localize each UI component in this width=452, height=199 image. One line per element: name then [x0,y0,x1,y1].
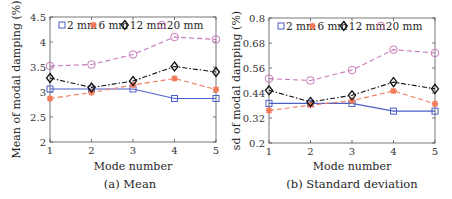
subfigure-caption: (a) Mean [104,177,157,191]
y-tick-label: 3.5 [30,62,46,73]
y-tick-label: 0.44 [243,88,265,99]
x-tick-label: 3 [130,145,136,156]
legend: 2 mm6 mm12 mm20 mm [278,20,422,32]
x-tick-label: 1 [266,146,272,157]
y-tick-label: 0.68 [243,38,265,49]
subfigure-caption: (b) Standard deviation [286,177,418,191]
6mm-marker [213,86,219,92]
y-tick-label: 4 [40,37,46,48]
legend-6mm-marker [90,22,96,28]
legend-label: 20 mm [167,19,204,31]
x-axis-label: Mode number [94,160,173,173]
plot-area [50,17,216,142]
y-tick-label: 2 [40,137,46,148]
legend-2mm-marker [59,22,65,28]
legend-2mm-marker [278,23,284,29]
series-20mm [265,46,439,84]
x-tick-label: 4 [171,145,177,156]
y-tick-label: 4.5 [30,12,46,23]
x-tick-label: 4 [390,146,396,157]
x-tick-label: 2 [307,146,313,157]
legend-label: 20 mm [386,20,423,32]
chart-standard-deviation: 0.20.320.440.560.680.8123452 mm6 mm12 mm… [230,11,439,191]
x-tick-label: 2 [88,145,94,156]
y-tick-label: 0.32 [243,113,265,124]
y-axis-label: sd of modal damping (%) [230,11,243,150]
x-axis-label: Mode number [313,160,392,173]
6mm-marker [390,88,396,94]
series-2mm [47,86,219,102]
6mm-marker [47,95,53,101]
legend: 2 mm6 mm12 mm20 mm [59,19,203,31]
y-tick-label: 0.56 [243,63,265,74]
y-axis-label: Mean of modal damping (%) [10,0,23,158]
6mm-marker [266,107,272,113]
y-tick-label: 3 [40,87,46,98]
y-tick-label: 2.5 [30,112,46,123]
x-tick-label: 5 [213,145,219,156]
plot-area [269,18,435,143]
figure: 22.533.544.5123452 mm6 mm12 mm20 mmMode … [0,0,452,199]
x-tick-label: 1 [47,145,53,156]
y-tick-label: 0.2 [249,138,265,149]
6mm-marker [432,101,438,107]
6mm-marker [171,75,177,81]
x-tick-label: 3 [349,146,355,157]
legend-6mm-marker [309,23,315,29]
series-20mm [46,33,220,70]
y-tick-label: 0.8 [249,13,265,24]
chart-mean: 22.533.544.5123452 mm6 mm12 mm20 mmMode … [10,0,220,191]
x-tick-label: 5 [432,146,438,157]
